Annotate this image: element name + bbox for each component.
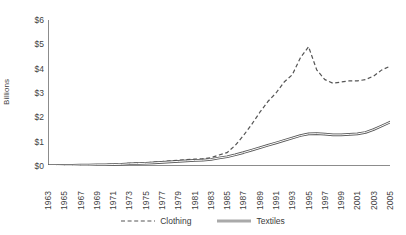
x-axis-tick-label: 1975 — [142, 191, 152, 210]
series-line-textiles — [48, 122, 390, 165]
plot-area — [48, 20, 390, 166]
x-axis-tick-label: 1977 — [158, 191, 168, 210]
x-axis-tick-label: 1971 — [109, 191, 119, 210]
x-axis-tick-label: 1991 — [272, 191, 282, 210]
y-axis-tick-label: $6 — [18, 16, 44, 25]
line-chart-figure: Billions $6$5$4$3$2$1$0 1963196519671969… — [0, 0, 406, 235]
x-axis-tick-label: 1983 — [207, 191, 217, 210]
x-axis-tick-label: 1967 — [77, 191, 87, 210]
x-axis-tick-label: 2001 — [353, 191, 363, 210]
x-axis-tick-label: 1985 — [223, 191, 233, 210]
x-axis-tick-label: 1997 — [321, 191, 331, 210]
x-axis-tick-label: 1963 — [44, 191, 54, 210]
legend-swatch-dashed-icon — [121, 217, 155, 225]
y-axis-tick-labels: $6$5$4$3$2$1$0 — [14, 0, 44, 235]
chart-legend: ClothingTextiles — [0, 210, 406, 232]
x-axis-tick-labels: 1963196519671969197119731975197719791981… — [48, 170, 390, 210]
y-axis-tick-label: $3 — [18, 89, 44, 98]
legend-label: Clothing — [160, 217, 191, 226]
x-axis-tick-label: 1993 — [288, 191, 298, 210]
legend-item-clothing[interactable]: Clothing — [121, 217, 191, 226]
y-axis-tick-label: $2 — [18, 113, 44, 122]
x-axis-tick-label: 1973 — [125, 191, 135, 210]
legend-item-textiles[interactable]: Textiles — [217, 217, 284, 226]
x-axis-tick-label: 1981 — [191, 191, 201, 210]
x-axis-tick-label: 1989 — [256, 191, 266, 210]
x-axis-tick-label: 1979 — [174, 191, 184, 210]
y-axis-tick-label: $5 — [18, 40, 44, 49]
legend-label: Textiles — [256, 217, 284, 226]
y-axis-tick-label: $0 — [18, 162, 44, 171]
series-line-clothing — [48, 47, 390, 166]
y-axis-tick-label: $4 — [18, 65, 44, 74]
x-axis-tick-label: 1965 — [60, 191, 70, 210]
legend-swatch-solid-icon — [217, 217, 251, 225]
y-axis-tick-label: $1 — [18, 138, 44, 147]
x-axis-tick-label: 1999 — [337, 191, 347, 210]
series-canvas — [48, 20, 390, 166]
x-axis-tick-label: 2005 — [386, 191, 396, 210]
x-axis-tick-label: 1987 — [239, 191, 249, 210]
x-axis-tick-label: 1995 — [305, 191, 315, 210]
x-axis-tick-label: 1969 — [93, 191, 103, 210]
x-axis-tick-label: 2003 — [370, 191, 380, 210]
